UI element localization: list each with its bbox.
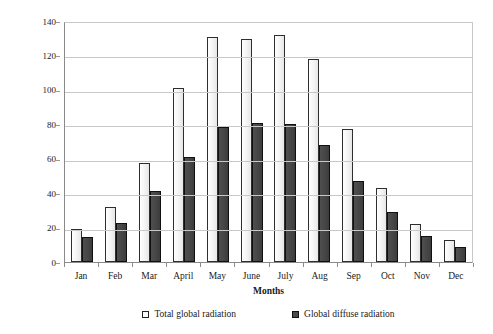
gridline: [65, 92, 472, 93]
y-tick-mark: [56, 125, 60, 126]
bar-group: [302, 23, 336, 262]
gridline: [65, 195, 472, 196]
y-tick-label: 20: [47, 224, 56, 233]
y-tick-label: 60: [47, 155, 56, 164]
bar-total-global-radiation[interactable]: [71, 229, 82, 262]
x-tick-label: April: [166, 270, 200, 284]
y-tick-mark: [56, 91, 60, 92]
bar-global-diffuse-radiation[interactable]: [285, 124, 296, 262]
gridline: [65, 57, 472, 58]
bar-total-global-radiation[interactable]: [207, 37, 218, 263]
legend-label: Total global radiation: [154, 309, 236, 320]
x-tick-mark: [166, 263, 167, 267]
x-tick-mark: [234, 263, 235, 267]
bar-group: [65, 23, 99, 262]
bar-global-diffuse-radiation[interactable]: [353, 181, 364, 262]
y-tick-mark: [56, 229, 60, 230]
bar-global-diffuse-radiation[interactable]: [455, 247, 466, 262]
x-axis-title: Months: [64, 286, 473, 296]
x-tick-label: Nov: [405, 270, 439, 284]
bar-global-diffuse-radiation[interactable]: [82, 237, 93, 262]
bars-layer: [65, 23, 472, 262]
bar-group: [235, 23, 269, 262]
bar-global-diffuse-radiation[interactable]: [252, 123, 263, 262]
legend-label: Global diffuse radiation: [304, 309, 395, 320]
bar-global-diffuse-radiation[interactable]: [319, 145, 330, 262]
bar-total-global-radiation[interactable]: [105, 207, 116, 262]
x-tick-label: May: [200, 270, 234, 284]
filled-square-marker-icon: [292, 311, 299, 318]
x-tick-mark: [337, 263, 338, 267]
bar-group: [336, 23, 370, 262]
gridline: [65, 230, 472, 231]
x-tick-mark: [269, 263, 270, 267]
bar-total-global-radiation[interactable]: [139, 163, 150, 262]
bar-total-global-radiation[interactable]: [444, 240, 455, 262]
x-tick-label: Dec: [439, 270, 473, 284]
bar-group: [201, 23, 235, 262]
x-tick-label: Mar: [132, 270, 166, 284]
y-tick-label: 100: [43, 86, 57, 95]
y-tick-mark: [56, 22, 60, 23]
x-tick-mark: [439, 263, 440, 267]
x-tick-label: June: [234, 270, 268, 284]
x-axis-tick-labels: JanFebMarAprilMayJuneJulyAugSepOctNovDec: [64, 270, 473, 284]
chart-legend: Total global radiationGlobal diffuse rad…: [64, 306, 473, 322]
x-tick-mark: [200, 263, 201, 267]
y-tick-mark: [56, 56, 60, 57]
bar-total-global-radiation[interactable]: [274, 35, 285, 262]
x-tick-mark: [405, 263, 406, 267]
x-axis-tick-marks: [64, 263, 473, 268]
y-tick-label: 120: [43, 52, 57, 61]
bar-group: [370, 23, 404, 262]
x-tick-mark: [303, 263, 304, 267]
x-tick-label: Aug: [303, 270, 337, 284]
y-tick-mark: [56, 194, 60, 195]
x-tick-label: Jan: [64, 270, 98, 284]
x-tick-label: Sep: [337, 270, 371, 284]
x-tick-label: Oct: [371, 270, 405, 284]
bar-group: [167, 23, 201, 262]
legend-item[interactable]: Global diffuse radiation: [292, 309, 395, 320]
y-tick-mark: [56, 263, 60, 264]
bar-global-diffuse-radiation[interactable]: [387, 212, 398, 262]
y-tick-label: 40: [47, 190, 56, 199]
gridline: [65, 126, 472, 127]
legend-item[interactable]: Total global radiation: [142, 309, 236, 320]
open-square-marker-icon: [142, 311, 149, 318]
bar-global-diffuse-radiation[interactable]: [421, 236, 432, 262]
x-tick-mark: [64, 263, 65, 267]
x-tick-mark: [132, 263, 133, 267]
bar-group: [133, 23, 167, 262]
x-tick-label: July: [268, 270, 302, 284]
x-tick-mark: [473, 263, 474, 267]
x-tick-mark: [98, 263, 99, 267]
bar-total-global-radiation[interactable]: [376, 188, 387, 262]
y-axis-tick-labels: 020406080100120140: [30, 22, 60, 263]
x-tick-label: Feb: [98, 270, 132, 284]
bar-total-global-radiation[interactable]: [173, 88, 184, 262]
bar-group: [269, 23, 303, 262]
bar-global-diffuse-radiation[interactable]: [184, 157, 195, 262]
plot-area: [64, 22, 473, 263]
y-tick-label: 80: [47, 121, 56, 130]
y-tick-mark: [56, 160, 60, 161]
bar-group: [438, 23, 472, 262]
gridline: [65, 161, 472, 162]
bar-group: [99, 23, 133, 262]
bar-total-global-radiation[interactable]: [241, 39, 252, 262]
bar-global-diffuse-radiation[interactable]: [150, 191, 161, 262]
bar-group: [404, 23, 438, 262]
bar-chart: Radiation, kWh/m2 020406080100120140 Jan…: [0, 0, 493, 334]
y-tick-label: 140: [43, 18, 57, 27]
x-tick-mark: [371, 263, 372, 267]
